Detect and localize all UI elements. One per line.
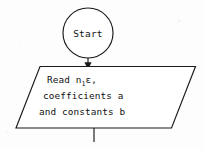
io-read-line-1-pre: Read n: [47, 74, 81, 85]
flowchart-diagram: Start Read n1ε, coefficients a and const…: [0, 0, 204, 150]
io-read-line-2: coefficients a: [43, 90, 123, 101]
io-read-line-1-post: ε,: [86, 74, 98, 85]
io-read-line-3: and constants b: [39, 106, 125, 117]
flowchart-canvas: Start Read n1ε, coefficients a and const…: [0, 0, 204, 150]
terminator-start-label: Start: [73, 28, 103, 39]
